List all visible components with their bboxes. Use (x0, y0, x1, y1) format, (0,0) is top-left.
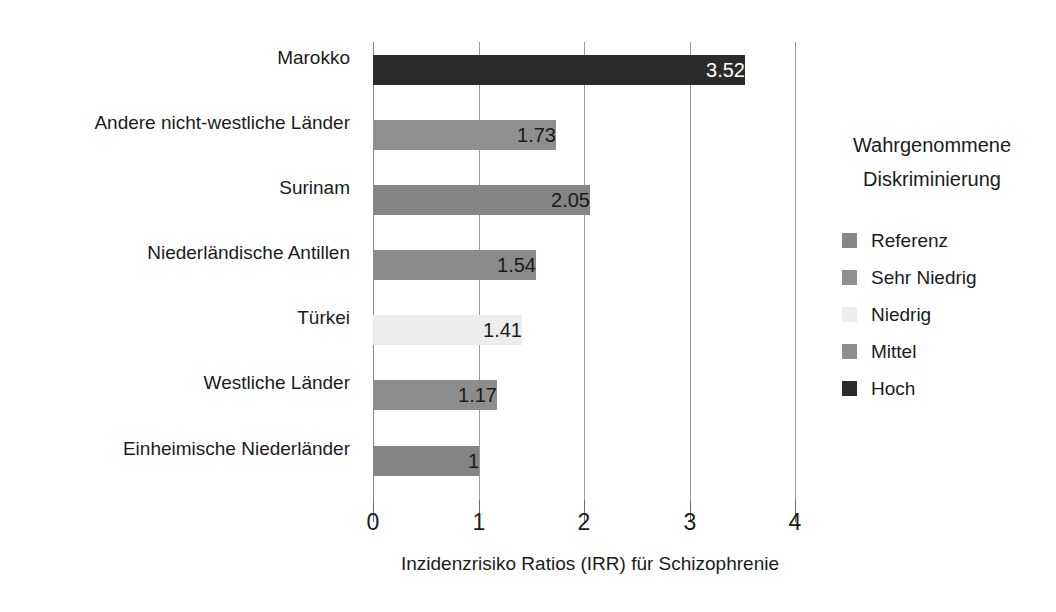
category-axis-labels: Marokko Andere nicht-westliche Länder Su… (0, 42, 362, 500)
legend-swatch-icon (842, 381, 857, 396)
legend-item-mittel: Mittel (842, 333, 1052, 370)
legend-swatch-icon (842, 270, 857, 285)
x-tick-label: 3 (670, 508, 710, 536)
legend-item-niedrig: Niedrig (842, 296, 1052, 333)
category-label: Niederländische Antillen (0, 242, 350, 264)
bar-value-label: 3.52 (373, 55, 754, 85)
legend-item-sehr-niedrig: Sehr Niedrig (842, 259, 1052, 296)
legend-item-hoch: Hoch (842, 370, 1052, 407)
legend-items: Referenz Sehr Niedrig Niedrig Mittel Hoc… (812, 222, 1052, 407)
legend-swatch-icon (842, 307, 857, 322)
bar-value-label: 1.41 (373, 315, 531, 345)
chart-legend: Wahrgenommene Diskriminierung Referenz S… (812, 128, 1052, 407)
bar-value-label: 1 (373, 446, 488, 476)
bar-value-label: 1.17 (373, 380, 506, 410)
x-tick-label: 2 (564, 508, 604, 536)
legend-label: Referenz (871, 230, 948, 252)
legend-title-line-1: Wahrgenommene (812, 128, 1052, 162)
x-axis-title: Inzidenzrisiko Ratios (IRR) für Schizoph… (330, 552, 850, 576)
legend-title-line-2: Diskriminierung (812, 162, 1052, 196)
gridline-2 (584, 42, 585, 500)
bar-value-label: 1.54 (373, 250, 545, 280)
legend-item-referenz: Referenz (842, 222, 1052, 259)
category-label: Türkei (0, 307, 350, 329)
x-tick-label: 1 (459, 508, 499, 536)
category-label: Westliche Länder (0, 372, 350, 394)
legend-swatch-icon (842, 233, 857, 248)
category-label: Marokko (0, 47, 350, 69)
gridline-3 (690, 42, 691, 500)
x-tick-label: 4 (775, 508, 815, 536)
bar-value-label: 2.05 (373, 185, 599, 215)
plot-area: 3.52 1.73 2.05 1.54 1.41 1.17 1 (373, 42, 796, 500)
x-tick-label: 0 (353, 508, 393, 536)
legend-label: Sehr Niedrig (871, 267, 977, 289)
legend-label: Hoch (871, 378, 915, 400)
x-axis-tick-labels: 0 1 2 3 4 (373, 508, 796, 538)
chart-figure: Marokko Andere nicht-westliche Länder Su… (0, 0, 1056, 612)
bar-value-label: 1.73 (373, 120, 565, 150)
legend-swatch-icon (842, 344, 857, 359)
category-label: Surinam (0, 177, 350, 199)
legend-label: Mittel (871, 341, 916, 363)
category-label: Andere nicht-westliche Länder (0, 112, 350, 134)
category-label: Einheimische Niederländer (0, 438, 350, 460)
gridline-4 (795, 42, 796, 500)
legend-label: Niedrig (871, 304, 931, 326)
